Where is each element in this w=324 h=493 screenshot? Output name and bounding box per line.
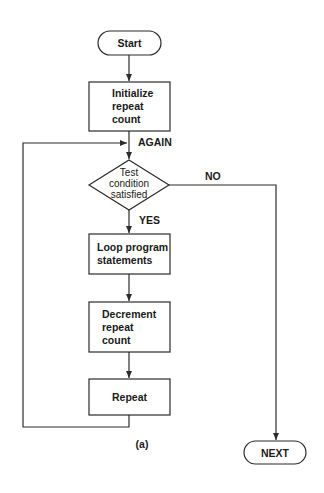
test-condition-diamond: Test condition satisfied	[89, 160, 169, 210]
figure-caption: (a)	[136, 438, 149, 450]
next-terminal: NEXT	[244, 441, 306, 464]
flowchart: Start Initialize repeat count AGAIN Test…	[0, 0, 324, 493]
init-line-3: count	[112, 113, 141, 125]
decrement-line-1: Decrement	[102, 308, 157, 320]
test-line-2: condition	[109, 178, 149, 189]
start-terminal: Start	[98, 31, 161, 55]
decrement-box: Decrement repeat count	[89, 302, 170, 352]
yes-label: YES	[139, 214, 160, 226]
test-line-1: Test	[120, 167, 139, 178]
test-line-3: satisfied	[111, 189, 148, 200]
init-line-1: Initialize	[112, 87, 154, 99]
loop-program-box: Loop program statements	[89, 234, 170, 274]
no-label: NO	[205, 170, 221, 182]
again-label: AGAIN	[138, 136, 172, 148]
repeat-box: Repeat	[89, 379, 170, 415]
decrement-line-2: repeat	[102, 321, 134, 333]
start-label: Start	[118, 37, 142, 49]
repeat-label: Repeat	[112, 391, 148, 403]
edge-no	[169, 185, 276, 440]
loop-line-2: statements	[97, 254, 153, 266]
next-label: NEXT	[261, 447, 290, 459]
initialize-box: Initialize repeat count	[89, 82, 170, 131]
init-line-2: repeat	[112, 100, 144, 112]
loop-line-1: Loop program	[97, 241, 168, 253]
decrement-line-3: count	[102, 334, 131, 346]
